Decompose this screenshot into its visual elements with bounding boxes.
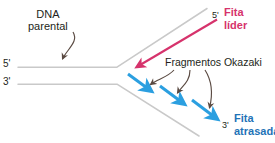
pointer-arrow-okazaki-1 <box>151 70 175 85</box>
label-three-prime-lagging: 3' <box>222 121 229 130</box>
label-fita-lider-line1: Fita <box>224 6 247 19</box>
pointer-arrow-okazaki-2 <box>178 70 191 93</box>
dna-replication-fork-diagram: DNA parental Fragmentos Okazaki 5' 3' 5'… <box>0 0 275 143</box>
label-fita-atrasada-line2: atrasada <box>234 125 275 138</box>
label-fita-lider: Fita líder <box>224 6 247 32</box>
label-fita-atrasada-line1: Fita <box>234 112 275 125</box>
label-dna-parental: DNA parental <box>28 9 68 32</box>
label-fita-atrasada: Fita atrasada <box>234 112 275 138</box>
label-fita-lider-line2: líder <box>224 19 247 32</box>
okazaki-fragment-arrow-2 <box>160 86 184 104</box>
okazaki-fragment-arrow-3 <box>192 100 217 119</box>
label-fragmentos-okazaki: Fragmentos Okazaki <box>165 57 262 68</box>
label-three-prime-bottom-left: 3' <box>3 77 10 88</box>
pointer-arrow-dna-parental <box>63 32 75 59</box>
parental-strand-bottom <box>18 84 199 136</box>
okazaki-fragment-arrow-1 <box>128 74 151 91</box>
pointer-arrow-okazaki-3 <box>205 70 212 108</box>
label-dna-parental-line1: DNA <box>28 9 68 21</box>
label-dna-parental-line2: parental <box>28 21 68 33</box>
label-five-prime-leading: 5' <box>212 11 219 20</box>
label-five-prime-top-left: 5' <box>3 59 10 70</box>
